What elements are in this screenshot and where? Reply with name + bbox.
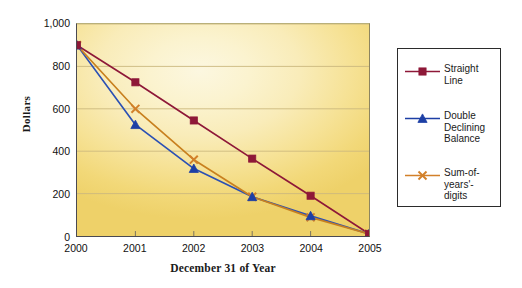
y-tick-label: 800: [24, 61, 70, 72]
y-tick-label: 400: [24, 146, 70, 157]
y-tick-label: 1,000: [24, 18, 70, 29]
x-tick-label: 2005: [344, 243, 396, 254]
series-lines: [77, 45, 369, 234]
triangle-marker: [404, 111, 441, 124]
square-marker-glyph: [404, 65, 441, 78]
x-tick-label: 2003: [226, 243, 278, 254]
square-marker: [404, 64, 441, 77]
legend-straight-line-square-marker: [419, 68, 426, 75]
straight-line-square-marker: [77, 42, 81, 49]
gridlines: [77, 24, 369, 194]
straight-line-square-marker: [190, 117, 197, 124]
depreciation-chart-figure: Dollars 02004006008001,000 2000200120022…: [0, 0, 522, 288]
legend-item-sum-of-years[interactable]: Sum-of- years'- digits: [398, 167, 502, 202]
y-tick-label: 200: [24, 189, 70, 200]
legend-item-straight-line[interactable]: Straight Line: [398, 63, 502, 86]
legend-label: Sum-of- years'- digits: [444, 167, 480, 202]
x-axis-tick-labels: 200020012002200320042005: [0, 243, 522, 261]
triangle-marker-glyph: [404, 112, 441, 125]
legend-label: Straight Line: [444, 63, 478, 86]
legend-item-double-declining[interactable]: Double Declining Balance: [398, 110, 502, 145]
x-tick-label: 2001: [109, 243, 161, 254]
x-marker-glyph: [404, 169, 441, 182]
straight-line-square-marker: [249, 155, 256, 162]
x-tick-label: 2000: [50, 243, 102, 254]
x-tick-label: 2004: [285, 243, 337, 254]
straight-line-square-marker: [365, 230, 369, 236]
straight-line-square-marker: [307, 192, 314, 199]
y-tick-label: 0: [24, 232, 70, 243]
x-marker: [404, 168, 441, 181]
legend-label: Double Declining Balance: [444, 110, 485, 145]
x-tick-marks: [135, 231, 310, 236]
sum-of-years-x-marker: [190, 156, 198, 164]
y-tick-label: 600: [24, 104, 70, 115]
plot-area: [76, 23, 370, 237]
series-markers: [77, 41, 369, 236]
straight-line-square-marker: [132, 79, 139, 86]
plot-svg: [77, 24, 369, 236]
chart-legend: Straight LineDouble Declining BalanceSum…: [397, 48, 501, 207]
x-tick-label: 2002: [168, 243, 220, 254]
x-axis-title: December 31 of Year: [76, 262, 370, 274]
series-line: [77, 45, 369, 234]
